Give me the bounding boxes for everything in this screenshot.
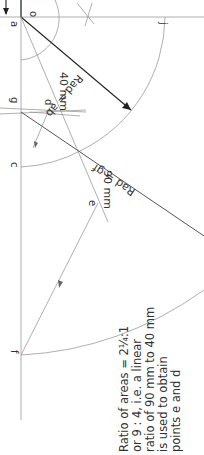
note-line-4: is used to obtain [156,356,170,452]
label-j: j [158,21,169,25]
arrow-icon-2 [58,280,63,288]
arc-ab [82,17,165,150]
constr-1 [0,108,86,112]
construction-diagram: o a j g d c e f 40 mm 90 mm Rad = ab Rad… [0,0,204,455]
note-line-5: points e and d [169,370,183,452]
line-fe [21,203,98,355]
label-c: c [9,162,20,168]
note-line-2: or 9 : 4, i.e. a linear [130,339,144,452]
label-g: g [9,97,20,103]
label-f: f [9,350,20,354]
arc-gf [21,290,204,355]
label-a: a [9,21,20,27]
label-e: e [87,200,98,206]
label-o: o [28,11,39,17]
arrow-down-icon [3,8,9,15]
line-a-ray [21,17,108,222]
note-line-3: ratio of 90 mm to 40 mm [143,307,157,452]
arc-ab-lower [21,150,82,167]
arrow-icon-1 [34,141,38,148]
note-line-1: Ratio of areas = 2¼:1 [117,326,131,452]
line-ab [21,17,131,110]
